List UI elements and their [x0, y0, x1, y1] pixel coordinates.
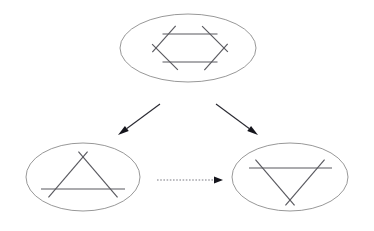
arrow-hexagon-to-triangle-down	[216, 104, 258, 135]
triangle-down-node[interactable]	[232, 143, 348, 211]
triangle-up-node-ellipse	[26, 143, 140, 211]
arrow-hexagon-to-triangle-up-head	[118, 126, 129, 135]
diagram-root	[0, 0, 374, 231]
triangle-up-node[interactable]	[26, 143, 140, 211]
hexagon-node-ellipse	[120, 14, 256, 82]
triangle-down-segment	[285, 160, 324, 206]
arrow-hexagon-to-triangle-up-line	[127, 104, 160, 128]
arrow-hexagon-to-triangle-down-head	[247, 126, 258, 135]
arrow-triangle-up-to-triangle-down-head	[214, 176, 223, 183]
hexagon-node[interactable]	[120, 14, 256, 82]
arrow-triangle-up-to-triangle-down	[157, 176, 223, 183]
triangle-down-segment	[255, 160, 294, 206]
diagram-canvas	[0, 0, 374, 231]
hexagon-segment	[204, 44, 227, 70]
triangle-down-shape	[249, 160, 332, 206]
hexagon-shape	[152, 26, 228, 70]
arrow-hexagon-to-triangle-up	[118, 104, 160, 135]
arrow-hexagon-to-triangle-down-line	[216, 104, 249, 128]
triangle-up-shape	[41, 152, 125, 198]
triangle-up-segment	[48, 152, 87, 198]
triangle-up-segment	[78, 152, 117, 198]
hexagon-segment	[152, 26, 175, 52]
